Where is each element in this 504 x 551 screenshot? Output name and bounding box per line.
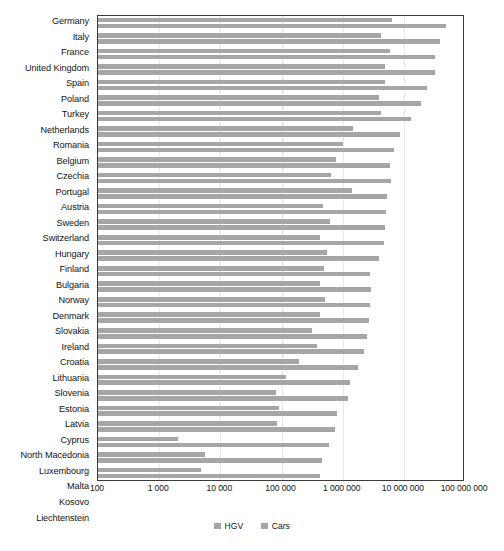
category-label: Bulgaria xyxy=(0,278,93,294)
category-label: Kosovo xyxy=(0,495,93,511)
bar-hgv xyxy=(98,80,385,85)
category-label: Belgium xyxy=(0,154,93,170)
bar-cars xyxy=(98,210,386,215)
bar-row xyxy=(98,280,463,296)
bar-row xyxy=(98,419,463,435)
bar-hgv xyxy=(98,95,379,100)
bar-hgv xyxy=(98,204,323,209)
category-label: North Macedonia xyxy=(0,448,93,464)
bar-cars xyxy=(98,225,385,230)
category-label: Spain xyxy=(0,76,93,92)
bar-row xyxy=(98,264,463,280)
category-label: Cyprus xyxy=(0,433,93,449)
bar-cars xyxy=(98,458,322,463)
bar-row xyxy=(98,140,463,156)
bar-cars xyxy=(98,86,427,91)
category-label: Poland xyxy=(0,92,93,108)
bar-hgv xyxy=(98,173,331,178)
category-label: Latvia xyxy=(0,417,93,433)
bar-row xyxy=(98,32,463,48)
x-tick-label: 1 000 xyxy=(148,483,169,493)
bar-cars xyxy=(98,365,358,370)
bar-cars xyxy=(98,70,435,75)
bar-row xyxy=(98,295,463,311)
category-label: Denmark xyxy=(0,309,93,325)
category-label: United Kingdom xyxy=(0,61,93,77)
bar-row xyxy=(98,326,463,342)
bar-hgv xyxy=(98,18,392,23)
x-tick-label: 100 xyxy=(90,483,104,493)
bar-hgv xyxy=(98,390,276,395)
log-bar-chart: GermanyItalyFranceUnited KingdomSpainPol… xyxy=(0,0,504,551)
category-label: Germany xyxy=(0,14,93,30)
bar-row xyxy=(98,78,463,94)
bar-row xyxy=(98,342,463,358)
bar-row xyxy=(98,156,463,172)
bar-hgv xyxy=(98,111,381,116)
bar-hgv xyxy=(98,359,299,364)
bar-hgv xyxy=(98,452,205,457)
bar-row xyxy=(98,109,463,125)
category-label: Hungary xyxy=(0,247,93,263)
plot-area xyxy=(97,15,464,481)
category-label: Switzerland xyxy=(0,231,93,247)
bar-hgv xyxy=(98,33,381,38)
bar-hgv xyxy=(98,375,286,380)
bar-cars xyxy=(98,380,350,385)
bar-hgv xyxy=(98,406,279,411)
bar-row xyxy=(98,202,463,218)
x-axis-tick-labels: 1001 00010 000100 0001 000 00010 000 000… xyxy=(97,483,464,499)
category-label: Estonia xyxy=(0,402,93,418)
bar-hgv xyxy=(98,468,201,473)
bar-row xyxy=(98,187,463,203)
category-label: Lithuania xyxy=(0,371,93,387)
category-label: Turkey xyxy=(0,107,93,123)
category-label: Slovenia xyxy=(0,386,93,402)
bar-cars xyxy=(98,443,329,448)
bar-row xyxy=(98,125,463,141)
bar-cars xyxy=(98,411,337,416)
x-tick-label: 100 000 xyxy=(265,483,295,493)
bar-row xyxy=(98,94,463,110)
bar-cars xyxy=(98,256,379,261)
bar-row xyxy=(98,466,463,481)
category-label: Sweden xyxy=(0,216,93,232)
bar-hgv xyxy=(98,297,325,302)
category-label: Netherlands xyxy=(0,123,93,139)
category-label: Ireland xyxy=(0,340,93,356)
bar-row xyxy=(98,388,463,404)
category-label: Italy xyxy=(0,30,93,46)
bar-row xyxy=(98,47,463,63)
category-label: Romania xyxy=(0,138,93,154)
bar-hgv xyxy=(98,126,353,131)
bar-row xyxy=(98,233,463,249)
legend-swatch-icon xyxy=(214,523,221,530)
bar-cars xyxy=(98,287,371,292)
bar-cars xyxy=(98,148,394,153)
bar-series-container xyxy=(98,16,463,480)
legend-swatch-icon xyxy=(261,523,268,530)
legend-label: HGV xyxy=(225,521,244,531)
category-label: Finland xyxy=(0,262,93,278)
category-label: Czechia xyxy=(0,169,93,185)
bar-cars xyxy=(98,39,440,44)
bar-row xyxy=(98,435,463,451)
bar-cars xyxy=(98,303,370,308)
bar-row xyxy=(98,357,463,373)
category-label: Luxembourg xyxy=(0,464,93,480)
bar-hgv xyxy=(98,344,317,349)
category-label: Croatia xyxy=(0,355,93,371)
chart-legend: HGVCars xyxy=(0,521,504,531)
bar-row xyxy=(98,16,463,32)
bar-hgv xyxy=(98,312,320,317)
legend-item[interactable]: Cars xyxy=(261,521,290,531)
bar-row xyxy=(98,218,463,234)
bar-hgv xyxy=(98,142,343,147)
bar-hgv xyxy=(98,188,352,193)
legend-item[interactable]: HGV xyxy=(214,521,243,531)
bar-row xyxy=(98,311,463,327)
category-label: Norway xyxy=(0,293,93,309)
x-tick-label: 10 000 xyxy=(206,483,232,493)
bar-row xyxy=(98,63,463,79)
x-tick-label: 1 000 000 xyxy=(323,483,360,493)
